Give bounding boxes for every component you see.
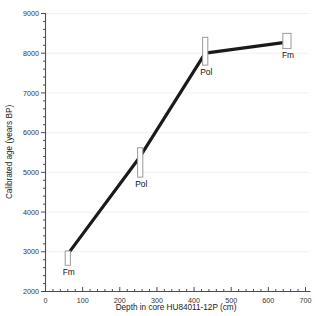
y-axis-title: Calibrated age (years BP) (5, 105, 14, 199)
y-tick-label-8000: 8000 (23, 49, 39, 58)
x-tick-label-100: 100 (77, 296, 89, 305)
y-tick-label-3000: 3000 (23, 247, 39, 256)
x-axis-title: Depth in core HU84011-12P (cm) (116, 303, 237, 312)
chart-background (0, 0, 315, 316)
y-tick-label-4000: 4000 (23, 208, 39, 217)
y-tick-label-9000: 9000 (23, 9, 39, 18)
point-label-0: Fm (63, 267, 75, 277)
uncertainty-box-3 (283, 33, 291, 48)
x-tick-label-600: 600 (262, 296, 274, 305)
age-depth-chart: 2000300040005000600070008000900001002003… (0, 0, 315, 316)
y-tick-label-2000: 2000 (23, 287, 39, 296)
x-tick-label-700: 700 (300, 296, 312, 305)
uncertainty-box-1 (138, 148, 143, 177)
y-tick-label-5000: 5000 (23, 168, 39, 177)
point-label-2: Pol (200, 67, 212, 77)
y-tick-label-6000: 6000 (23, 128, 39, 137)
point-label-3: Fm (282, 50, 294, 60)
point-label-1: Pol (135, 179, 147, 189)
uncertainty-box-2 (203, 37, 208, 65)
y-tick-label-7000: 7000 (23, 89, 39, 98)
x-tick-label-0: 0 (44, 296, 48, 305)
chart-canvas: 2000300040005000600070008000900001002003… (0, 0, 315, 316)
uncertainty-box-0 (65, 251, 70, 265)
